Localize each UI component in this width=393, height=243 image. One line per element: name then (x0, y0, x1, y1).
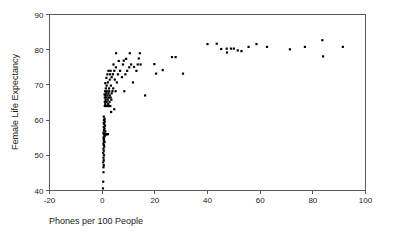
data-point (171, 56, 173, 58)
data-point (115, 66, 117, 68)
x-axis-title: Phones per 100 People (49, 216, 143, 226)
data-point (105, 92, 107, 94)
data-point (102, 181, 104, 183)
data-point (105, 77, 107, 79)
data-point (108, 87, 110, 89)
y-tick-label: 60 (35, 116, 44, 125)
data-point (103, 164, 105, 166)
data-point (144, 94, 146, 96)
data-point (112, 63, 114, 65)
data-point (105, 87, 107, 89)
data-point (118, 60, 120, 62)
data-point (226, 48, 228, 50)
data-point (289, 48, 291, 50)
data-point (111, 76, 113, 78)
data-point (107, 133, 109, 135)
data-point (322, 55, 324, 57)
x-tick-label: 40 (203, 196, 212, 205)
y-tick-label: 70 (35, 81, 44, 90)
data-point (110, 111, 112, 113)
data-point (103, 118, 105, 120)
data-point (111, 92, 113, 94)
data-point (240, 50, 242, 52)
x-tick-label: 60 (256, 196, 265, 205)
data-point (109, 94, 111, 96)
data-point (110, 85, 112, 87)
data-point (216, 43, 218, 45)
plot-frame (50, 15, 366, 191)
data-point (220, 48, 222, 50)
data-point (106, 101, 108, 103)
data-point (137, 63, 139, 65)
data-point (116, 81, 118, 83)
x-tick-label: 20 (150, 196, 159, 205)
data-point (107, 99, 109, 101)
data-point (111, 90, 113, 92)
data-point (119, 70, 121, 72)
y-tick-label: 80 (35, 46, 44, 55)
data-point (110, 99, 112, 101)
data-point (106, 73, 108, 75)
data-point (123, 60, 125, 62)
data-point (237, 49, 239, 51)
data-point (321, 39, 323, 41)
data-point (140, 63, 142, 65)
data-point (247, 46, 249, 48)
data-point (115, 90, 117, 92)
data-point (153, 63, 155, 65)
data-point (112, 73, 114, 75)
data-point (108, 101, 110, 103)
data-point (103, 159, 105, 161)
data-point (106, 94, 108, 96)
x-tick-label: 0 (100, 196, 105, 205)
data-point (133, 66, 135, 68)
x-axis-ticks: -20020406080100 (44, 191, 373, 205)
data-point (103, 154, 105, 156)
data-point (104, 99, 106, 101)
data-point (109, 79, 111, 81)
y-tick-label: 50 (35, 151, 44, 160)
y-tick-label: 90 (35, 11, 44, 20)
data-point (104, 103, 106, 105)
data-point (233, 48, 235, 50)
data-point (124, 73, 126, 75)
data-point (109, 70, 111, 72)
data-point (105, 96, 107, 98)
x-tick-label: 80 (308, 196, 317, 205)
data-point (102, 148, 104, 150)
data-point (125, 58, 127, 60)
data-point (135, 70, 137, 72)
data-point (102, 166, 104, 168)
data-point (106, 90, 108, 92)
data-point (114, 79, 116, 81)
data-point (107, 81, 109, 83)
data-point (182, 73, 184, 75)
data-point (102, 171, 104, 173)
data-point (162, 69, 164, 71)
data-point (103, 115, 105, 117)
data-point (117, 73, 119, 75)
data-point (175, 56, 177, 58)
data-point (226, 51, 228, 53)
data-point (102, 152, 104, 154)
data-point (255, 43, 257, 45)
data-point (126, 70, 128, 72)
data-point (123, 90, 125, 92)
data-point (115, 52, 117, 54)
data-point (107, 103, 109, 105)
data-point (230, 48, 232, 50)
data-point (139, 52, 141, 54)
data-point (113, 70, 115, 72)
data-point (112, 87, 114, 89)
x-tick-label: 100 (359, 196, 373, 205)
x-tick-label: -20 (44, 196, 56, 205)
data-point (155, 73, 157, 75)
data-point (106, 85, 108, 87)
data-point (102, 187, 104, 189)
data-point (130, 63, 132, 65)
data-point (108, 90, 110, 92)
data-point (113, 108, 115, 110)
data-point (304, 46, 306, 48)
plot-canvas: -20020406080100 405060708090 Phones per … (0, 0, 393, 243)
scatter-chart-figure: -20020406080100 405060708090 Phones per … (0, 0, 393, 243)
